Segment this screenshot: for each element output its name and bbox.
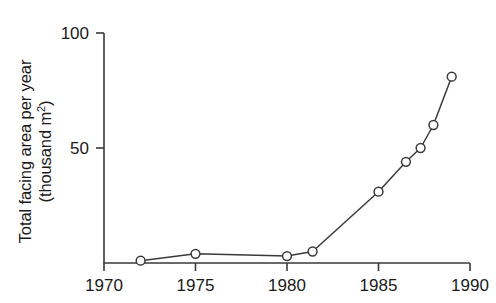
data-point <box>402 157 411 166</box>
series-line-0 <box>141 77 452 261</box>
y-tick-label-100: 100 <box>61 24 89 43</box>
data-series <box>136 72 456 265</box>
x-tick-label-1975: 1975 <box>177 276 215 295</box>
data-point <box>447 72 456 81</box>
data-point <box>191 249 200 258</box>
axis-lines <box>104 33 470 263</box>
data-point <box>416 144 425 153</box>
plot-area: 100 50 1970 1975 1980 1985 1990 <box>0 0 496 303</box>
data-point <box>136 256 145 265</box>
data-point <box>374 187 383 196</box>
data-point <box>283 252 292 261</box>
x-tick-label-1990: 1990 <box>451 276 489 295</box>
x-tick-label-1980: 1980 <box>268 276 306 295</box>
chart-figure: Total facing area per year (thousand m2)… <box>0 0 496 303</box>
x-tick-label-1970: 1970 <box>85 276 123 295</box>
data-point <box>429 121 438 130</box>
y-tick-label-50: 50 <box>70 139 89 158</box>
x-tick-label-1985: 1985 <box>360 276 398 295</box>
data-point <box>308 247 317 256</box>
